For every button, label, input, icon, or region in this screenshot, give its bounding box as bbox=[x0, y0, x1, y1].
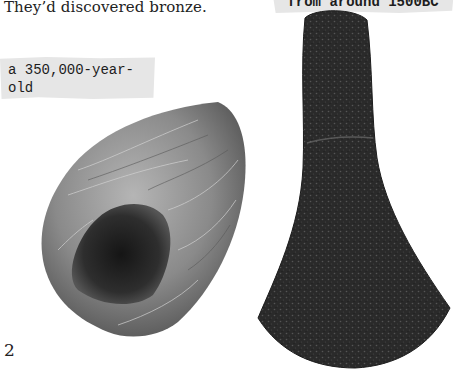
intro-text: They’d discovered bronze. bbox=[4, 0, 207, 16]
stone-axe-caption-line1: a 350,000-year-old bbox=[8, 61, 147, 97]
bronze-axe-icon bbox=[255, 8, 455, 370]
bronze-axe-image bbox=[255, 8, 455, 370]
stone-axe-image bbox=[38, 100, 248, 340]
stone-axe-caption: a 350,000-year-old stone axe from Spain bbox=[0, 57, 155, 99]
stone-axe-icon bbox=[38, 100, 248, 340]
page-number: 2 bbox=[4, 340, 15, 360]
